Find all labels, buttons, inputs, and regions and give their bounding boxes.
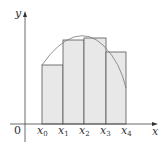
partition-labels: x0 x1 x2 x3 x4 (37, 124, 132, 138)
rectangle-4 (106, 52, 126, 124)
rectangle-2 (63, 40, 84, 124)
y-axis-arrow-icon (23, 11, 27, 17)
label-x3: x3 (100, 124, 111, 138)
x-axis-label: x (152, 125, 159, 138)
label-x4: x4 (121, 124, 132, 138)
label-x0: x0 (37, 124, 48, 138)
label-x1: x1 (58, 124, 69, 138)
origin-label: 0 (14, 124, 21, 137)
label-x2: x2 (79, 124, 90, 138)
riemann-diagram: y x 0 x0 x1 x2 x3 x4 (0, 0, 167, 148)
rectangles (42, 38, 126, 124)
rectangle-1 (42, 65, 63, 124)
rectangle-3 (84, 38, 106, 124)
y-axis-label: y (14, 7, 22, 20)
